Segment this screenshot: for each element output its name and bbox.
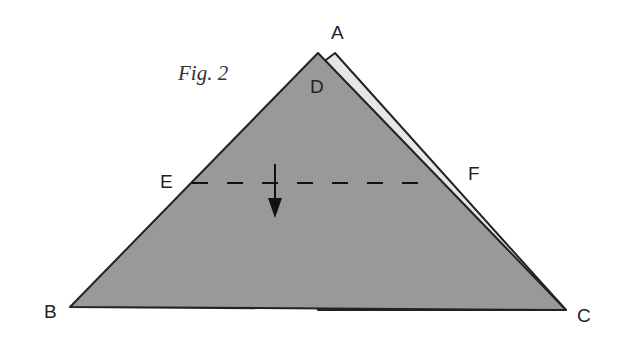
label-d: D bbox=[310, 77, 324, 96]
figure-caption: Fig. 2 bbox=[178, 63, 228, 84]
label-c: C bbox=[577, 306, 591, 325]
origami-diagram: Fig. 2 A D E F B C bbox=[0, 0, 628, 347]
label-a: A bbox=[331, 23, 344, 42]
label-f: F bbox=[468, 164, 480, 183]
triangle-fold-figure bbox=[0, 0, 628, 347]
label-e: E bbox=[160, 172, 173, 191]
label-b: B bbox=[44, 302, 57, 321]
